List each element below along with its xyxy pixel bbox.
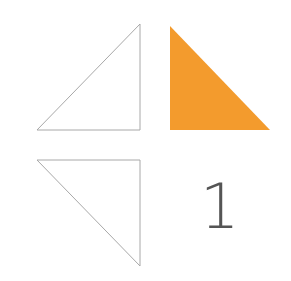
triangle-diagram <box>0 0 291 281</box>
top-left-triangle <box>37 24 140 130</box>
bottom-left-triangle <box>37 160 140 266</box>
answer-label: 1 <box>200 176 239 238</box>
top-right-triangle <box>170 26 270 130</box>
